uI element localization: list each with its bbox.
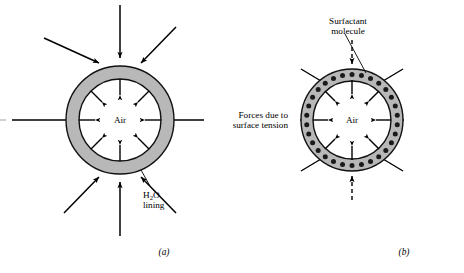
- surfactant-molecule-dot: [323, 81, 328, 86]
- surfactant-molecule-dot: [304, 122, 309, 127]
- surfactant-molecule-dot: [389, 140, 394, 145]
- surfactant-molecule-dot: [323, 154, 328, 159]
- panel-b-air-label: Air: [346, 115, 358, 125]
- panel-a-caption: (a): [159, 247, 170, 258]
- surfactant-molecule-dot: [389, 95, 394, 100]
- surfactant-molecule-dot: [376, 154, 381, 159]
- surfactant-molecule-dot: [368, 76, 373, 81]
- forces-label-line2: surface tension: [233, 120, 289, 130]
- surfactant-molecule-dot: [350, 72, 355, 77]
- surfactant-molecule-dot: [359, 162, 364, 167]
- surfactant-molecule-dot: [393, 132, 398, 137]
- figure-canvas: Air H2O lining (a): [0, 0, 464, 273]
- surfactant-molecule-dot: [304, 113, 309, 118]
- surfactant-molecule-dot: [350, 163, 355, 168]
- surfactant-molecule-dot: [359, 73, 364, 78]
- figure-alveolus-surface-tension: Air H2O lining (a): [0, 0, 464, 273]
- surfactant-molecule-dot: [316, 87, 321, 92]
- surfactant-molecule-dot: [340, 162, 345, 167]
- surfactant-molecule-dot: [383, 87, 388, 92]
- surfactant-molecule-dot: [331, 159, 336, 164]
- surfactant-molecule-dot: [306, 103, 311, 108]
- panel-b-caption: (b): [399, 247, 410, 258]
- panel-a-air-label: Air: [114, 115, 126, 125]
- surfactant-molecule-dot: [310, 95, 315, 100]
- forces-label-line1: Forces due to: [239, 110, 289, 120]
- h2o-label-line2: lining: [143, 200, 165, 210]
- surfactant-molecule-dot: [340, 73, 345, 78]
- surfactant-molecule-dot: [368, 159, 373, 164]
- surfactant-molecule-dot: [331, 76, 336, 81]
- forces-label: Forces due to surface tension: [233, 110, 289, 130]
- surfactant-label-line2: molecule: [331, 26, 365, 36]
- surfactant-molecule-dot: [376, 81, 381, 86]
- surfactant-molecule-dot: [383, 148, 388, 153]
- surfactant-molecule-dot: [306, 132, 311, 137]
- surfactant-molecule-dot: [395, 122, 400, 127]
- surfactant-molecule-dot: [395, 113, 400, 118]
- surfactant-molecule-dot: [393, 103, 398, 108]
- surfactant-molecule-dot: [310, 140, 315, 145]
- surfactant-label-line1: Surfactant: [329, 16, 367, 26]
- surfactant-molecule-dot: [316, 148, 321, 153]
